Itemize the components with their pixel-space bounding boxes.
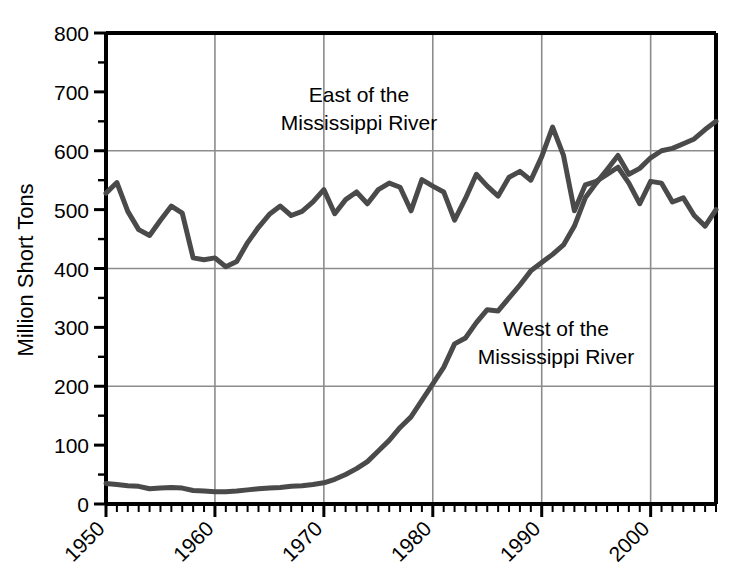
y-tick-label-600: 600 [54, 140, 89, 163]
y-tick-label-500: 500 [54, 199, 89, 222]
y-tick-label-400: 400 [54, 258, 89, 281]
y-axis-tick-labels: 0100200300400500600700800 [54, 22, 89, 516]
y-tick-label-0: 0 [77, 493, 89, 516]
west-annotation-line2: Mississippi River [478, 345, 634, 368]
coal-production-line-chart: 0100200300400500600700800 19501960197019… [0, 0, 739, 587]
y-axis-title: Million Short Tons [13, 183, 38, 356]
y-tick-label-200: 200 [54, 375, 89, 398]
east-annotation-line2: Mississippi River [281, 111, 437, 134]
chart-figure: 0100200300400500600700800 19501960197019… [0, 0, 739, 587]
west-annotation-line1: West of the [503, 317, 609, 340]
y-tick-label-100: 100 [54, 434, 89, 457]
y-tick-label-700: 700 [54, 81, 89, 104]
y-tick-label-300: 300 [54, 316, 89, 339]
east-annotation-line1: East of the [309, 83, 409, 106]
y-tick-label-800: 800 [54, 22, 89, 45]
